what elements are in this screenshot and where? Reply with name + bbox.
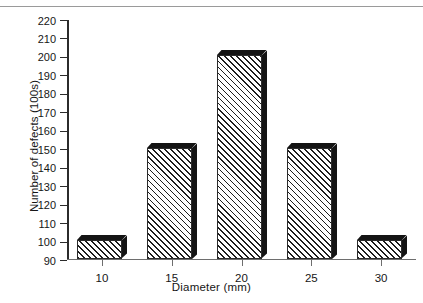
y-tick-label: 210 — [38, 33, 56, 45]
y-tick: 170 — [60, 112, 67, 113]
bar — [77, 240, 122, 258]
y-tick-label: 130 — [38, 181, 56, 193]
y-tick: 160 — [60, 131, 67, 132]
y-tick: 100 — [60, 242, 67, 243]
y-tick-label: 110 — [38, 218, 56, 230]
x-tick — [381, 260, 382, 266]
y-tick: 150 — [60, 149, 67, 150]
y-tick-label: 180 — [38, 88, 56, 100]
y-tick: 210 — [60, 38, 67, 39]
y-tick: 120 — [60, 205, 67, 206]
bar-side-shadow — [122, 236, 127, 259]
bar-side-shadow — [332, 143, 337, 258]
y-tick-label: 100 — [38, 236, 56, 248]
y-tick-label: 220 — [38, 15, 56, 27]
bar — [287, 148, 332, 259]
bar-face — [287, 148, 332, 259]
x-tick — [172, 260, 173, 266]
y-axis-line — [67, 20, 69, 260]
bar-face — [147, 148, 192, 259]
bar — [147, 148, 192, 259]
y-tick-label: 90 — [44, 255, 56, 267]
y-tick-label: 170 — [38, 107, 56, 119]
bar-chart-figure: Number of defects (100s) 220210200190180… — [0, 0, 423, 303]
bar-face — [357, 240, 402, 258]
bar-side-shadow — [192, 143, 197, 258]
bar — [217, 55, 262, 258]
y-tick-label: 190 — [38, 70, 56, 82]
y-tick: 180 — [60, 94, 67, 95]
y-tick-label: 200 — [38, 51, 56, 63]
x-tick — [102, 260, 103, 266]
y-tick-label: 160 — [38, 125, 56, 137]
y-tick: 110 — [60, 223, 67, 224]
x-axis-title: Diameter (mm) — [0, 281, 423, 293]
page-top-rule — [0, 6, 423, 7]
x-tick — [242, 260, 243, 266]
y-tick: 130 — [60, 186, 67, 187]
bar-face — [217, 55, 262, 258]
bar — [357, 240, 402, 258]
x-tick — [311, 260, 312, 266]
y-tick-label: 120 — [38, 199, 56, 211]
y-tick: 190 — [60, 75, 67, 76]
y-tick: 200 — [60, 57, 67, 58]
bar-side-shadow — [262, 51, 267, 259]
plot-area: 2202102001901801701601501401301201101009… — [67, 20, 416, 260]
y-tick: 90 — [60, 260, 67, 261]
y-tick-label: 140 — [38, 162, 56, 174]
y-tick: 220 — [60, 20, 67, 21]
y-tick: 140 — [60, 168, 67, 169]
y-tick-label: 150 — [38, 144, 56, 156]
bar-face — [77, 240, 122, 258]
